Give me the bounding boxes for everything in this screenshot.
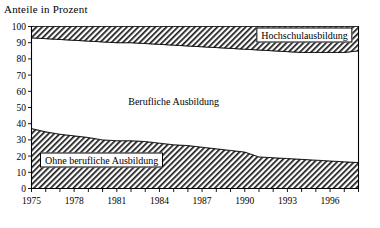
y-tick-label: 80 (17, 54, 27, 64)
y-tick-label: 40 (17, 119, 27, 129)
x-tick-label: 1987 (193, 196, 212, 206)
x-tick-label: 1981 (107, 196, 126, 206)
x-tick-label: 1993 (278, 196, 297, 206)
x-tick-label: 1975 (22, 196, 41, 206)
y-tick-label: 70 (17, 71, 27, 81)
y-tick-label: 0 (21, 184, 26, 194)
y-tick-label: 20 (17, 152, 27, 162)
annotation-hochschulausbildung: Hochschulausbildung (256, 28, 353, 43)
chart-root: Anteile in Prozent 010203040506070809010… (0, 0, 380, 228)
annotation-berufliche-ausbildung: Berufliche Ausbildung (128, 96, 219, 107)
y-tick-label: 50 (17, 103, 27, 113)
y-tick-label: 10 (17, 168, 27, 178)
y-tick-label: 60 (17, 87, 27, 97)
x-tick-label: 1996 (321, 196, 340, 206)
x-tick-label: 1984 (150, 196, 169, 206)
x-tick-label: 1990 (235, 196, 254, 206)
x-tick-label: 1978 (65, 196, 84, 206)
y-tick-label: 30 (17, 135, 27, 145)
y-tick-label: 100 (12, 22, 27, 32)
annotation-ohne-berufliche-ausbildung: Ohne berufliche Ausbildung (40, 153, 163, 168)
y-tick-label: 90 (17, 38, 27, 48)
